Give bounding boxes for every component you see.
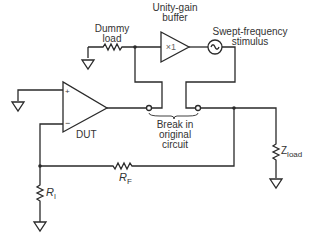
break-label: Break in original circuit: [150, 120, 200, 150]
dut-label: DUT: [76, 130, 97, 140]
zload-resistor: [273, 142, 279, 178]
dummy-load-resistor: [100, 44, 161, 50]
rf-resistor: [40, 163, 134, 169]
dummy-load-label: Dummy load: [94, 24, 130, 44]
ground-icon: [270, 179, 282, 188]
ground-icon: [82, 60, 94, 69]
junction-dot: [38, 164, 42, 168]
plus-input-label: +: [65, 87, 70, 97]
ri-label: RI: [46, 187, 56, 202]
ground-icon: [12, 102, 24, 111]
ground-icon: [34, 222, 46, 231]
junction-dot: [232, 106, 236, 110]
break-terminal-right: [196, 106, 201, 111]
unity-buffer-label: Unity-gain buffer: [150, 3, 200, 23]
dummy-load-ground-wire: [88, 47, 100, 58]
break-terminal-left: [147, 106, 152, 111]
junction-dot: [133, 45, 137, 49]
minus-input-label: −: [65, 118, 70, 128]
stimulus-label: Swept-frequency stimulus: [210, 27, 290, 47]
rf-label: RF: [119, 172, 132, 187]
ri-resistor: [37, 183, 43, 222]
zload-label: Zload: [281, 146, 302, 160]
buffer-gain-label: ×1: [161, 42, 181, 52]
